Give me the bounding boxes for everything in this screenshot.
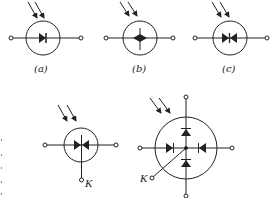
diagram-canvas: (a) (b) (c) K K [0,0,279,198]
photodiode-symbol-a [9,2,83,55]
photodiode-symbol-k [43,105,118,182]
quadrant-photodiode-symbol [138,95,234,198]
label-c: (c) [222,63,236,74]
label-k-right: K [139,172,148,184]
label-a: (a) [34,63,48,74]
photodiode-symbol-c [193,2,269,55]
photodiode-symbol-b [104,2,175,55]
margin-marks [1,139,2,195]
label-b: (b) [132,63,146,74]
label-k-left: K [84,177,93,189]
